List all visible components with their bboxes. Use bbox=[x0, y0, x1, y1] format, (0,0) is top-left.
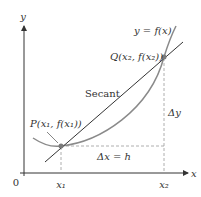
origin-label: 0 bbox=[13, 177, 19, 188]
delta-y-label: Δy bbox=[167, 107, 181, 118]
secant-label: Secant bbox=[85, 88, 120, 99]
point-q-label: Q(x₂, f(x₂)) bbox=[110, 51, 163, 62]
delta-x-label: Δx = h bbox=[96, 151, 131, 162]
point-p-label: P(x₁, f(x₁)) bbox=[29, 118, 82, 129]
secant-diagram: y x 0 y = f(x) Secant Q(x₂, f(x₂)) P(x₁,… bbox=[0, 0, 201, 197]
y-axis-label: y bbox=[19, 11, 26, 22]
p-label-pointer bbox=[47, 132, 58, 143]
curve-label: y = f(x) bbox=[133, 25, 172, 36]
x-axis-label: x bbox=[191, 168, 197, 179]
x2-tick-label: x₂ bbox=[159, 179, 169, 190]
x1-tick-label: x₁ bbox=[56, 179, 66, 190]
point-p bbox=[59, 144, 64, 149]
